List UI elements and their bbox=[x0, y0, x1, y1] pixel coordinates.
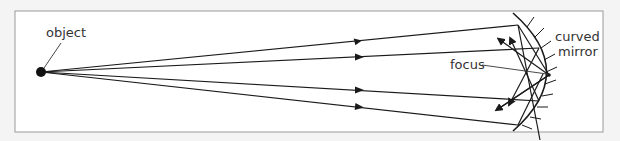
mirror-label-line1: curved bbox=[555, 29, 600, 44]
diagram-frame bbox=[15, 11, 603, 132]
focus-point bbox=[547, 73, 551, 77]
focus-label: focus bbox=[450, 57, 485, 72]
object-point bbox=[36, 67, 46, 77]
mirror-label-line2: mirror bbox=[558, 44, 598, 59]
object-label: object bbox=[46, 25, 86, 40]
curved-mirror-diagram: object focus curved mirror bbox=[0, 0, 620, 141]
